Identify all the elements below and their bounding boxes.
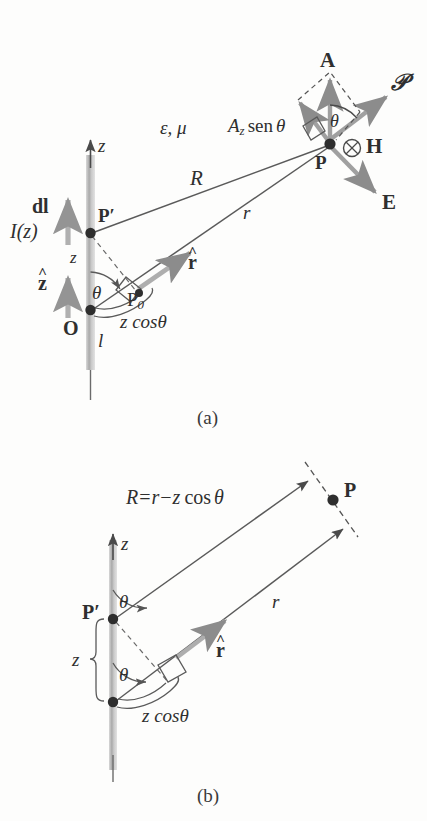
Az-A: A — [228, 115, 240, 136]
z-hat-caret: ^ — [38, 265, 47, 281]
origin-dot — [85, 305, 95, 315]
theta-arc-bottom-b — [113, 663, 146, 682]
caption-a: (a) — [197, 408, 218, 427]
label-r-hat-a: ^r — [188, 252, 197, 272]
label-current-a: I(z) — [10, 221, 38, 241]
source-point-dot — [85, 228, 95, 238]
foot-point-letter: P — [127, 289, 138, 310]
foot-point-subscript: 0 — [138, 297, 144, 312]
label-medium-a: ε, μ — [160, 118, 187, 137]
label-vector-H-a: H — [366, 136, 382, 157]
label-z-hat-a: ^z — [38, 273, 47, 293]
Req-cos: cos — [184, 486, 211, 508]
label-z-segment-a: z — [70, 249, 77, 266]
label-vector-poynting-a: 𝒫 — [391, 70, 408, 93]
label-R-a: R — [190, 168, 203, 189]
label-r-hat-b: ^r — [216, 640, 225, 660]
antenna-rod — [86, 155, 95, 370]
label-theta-top-b: θ — [119, 592, 128, 611]
r-hat-vector-arrow — [138, 253, 190, 289]
label-theta-P-a: θ — [330, 112, 339, 130]
label-z-cos-theta-b: z cosθ — [142, 706, 189, 725]
R-line — [92, 146, 327, 233]
Req-theta: θ — [214, 486, 224, 508]
Az-subscript-z: z — [240, 123, 245, 138]
label-z-brace-b: z — [72, 650, 79, 669]
A-decomposition-dashed-right — [336, 112, 360, 140]
Req-equals: = — [139, 486, 150, 508]
r-hat-caret-b: ^ — [216, 632, 225, 648]
z-cos-theta-brace-inner-b — [118, 683, 166, 700]
panel-b — [90, 462, 358, 782]
field-point-dot-b — [327, 494, 338, 505]
label-field-point-a: P — [315, 153, 327, 172]
r-line-b — [116, 529, 343, 701]
source-point-dot-b — [108, 614, 118, 624]
label-R-equation-b: R=r−zcosθ — [126, 487, 224, 507]
Req-z: z — [173, 486, 181, 508]
label-vector-A-a: A — [320, 50, 335, 71]
label-z-axis-a: z — [98, 136, 105, 155]
Az-sen: sen — [248, 115, 273, 136]
lower-point-dot-b — [108, 697, 118, 707]
label-theta-bottom-b: θ — [119, 665, 128, 684]
Req-R: R — [126, 486, 138, 508]
label-foot-point-a: P0 — [127, 290, 144, 312]
label-r-a: r — [243, 203, 250, 222]
label-z-axis-b: z — [121, 534, 128, 553]
field-point-dot-a — [324, 138, 335, 149]
r-line — [92, 147, 329, 310]
Az-theta: θ — [276, 115, 285, 136]
label-origin-a: O — [63, 318, 79, 338]
z-brace-b — [90, 619, 104, 701]
label-Az-sen-theta-a: Azsenθ — [228, 116, 285, 138]
r-hat-caret: ^ — [188, 244, 197, 260]
label-vector-E-a: E — [382, 192, 396, 213]
label-source-point-a: P′ — [98, 206, 115, 225]
Req-minus: − — [160, 486, 171, 508]
caption-b: (b) — [197, 786, 219, 805]
antenna-rod-b — [109, 540, 117, 770]
label-source-point-b: P′ — [82, 602, 100, 622]
label-dl-a: dl — [32, 196, 49, 216]
label-length-a: l — [98, 331, 103, 350]
label-r-b: r — [272, 592, 279, 611]
label-theta-a: θ — [92, 283, 101, 302]
label-field-point-b: P — [344, 480, 356, 500]
Req-r: r — [152, 486, 160, 508]
label-z-cos-theta-a: z cosθ — [120, 312, 167, 331]
